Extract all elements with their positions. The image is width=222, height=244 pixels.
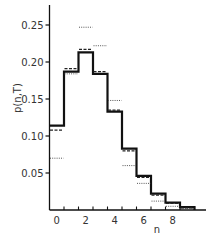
y-tick-label: 0.05 [21,168,43,179]
y-tick-label: 0.20 [21,57,43,68]
x-tick-label: 8 [170,215,176,226]
step-histogram-chart: 0.050.100.150.200.25 02468 n p(n,T) [0,0,222,244]
series-solid-step-line [50,52,195,210]
y-tick-label: 0.15 [21,94,43,105]
y-tick-label: 0.10 [21,131,43,142]
y-axis-label: p(n,T) [12,83,23,113]
x-tick-label: 2 [83,215,89,226]
x-tick-label: 4 [112,215,118,226]
x-tick-label: 0 [54,215,60,226]
y-ticks: 0.050.100.150.200.25 [21,20,49,179]
x-axis-label: n [154,224,160,235]
x-tick-label: 6 [141,215,147,226]
y-tick-label: 0.25 [21,20,43,31]
series-layer [50,27,195,210]
